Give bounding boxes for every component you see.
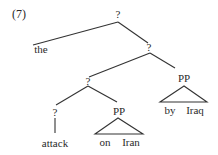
node-pp-right: PP — [178, 73, 190, 84]
leaf-attack: attack — [42, 138, 68, 149]
node-level2: ? — [147, 42, 152, 53]
node-level4: ? — [53, 107, 58, 118]
leaf-on: on — [100, 137, 111, 148]
leaf-by: by — [165, 105, 176, 116]
node-pp-left: PP — [113, 106, 125, 117]
node-level3: ? — [86, 76, 91, 87]
root-node: ? — [116, 9, 121, 20]
syntax-tree-diagram: (7) ? the ? ? PP ? PP attack on Iran by … — [0, 0, 218, 155]
leaf-iran: Iran — [122, 137, 140, 148]
leaf-the: the — [34, 44, 47, 55]
example-number: (7) — [12, 9, 26, 20]
leaf-iraq: Iraq — [186, 105, 204, 116]
